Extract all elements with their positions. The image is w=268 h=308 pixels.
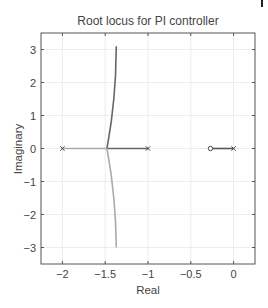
y-axis-label: Imaginary <box>12 124 24 175</box>
y-tick-label: 1 <box>30 110 36 122</box>
y-tick-label: −3 <box>23 242 36 254</box>
x-tick-label: −2 <box>56 268 69 280</box>
y-tick-label: −2 <box>23 209 36 221</box>
x-axis-label: Real <box>136 284 160 296</box>
page-edge-mark <box>261 0 263 7</box>
axis-ticks: −2−1.5−1−0.503210−1−2−3 <box>23 33 255 280</box>
zero-o-icon <box>208 146 212 150</box>
x-tick-label: −0.5 <box>180 268 202 280</box>
chart-title: Root locus for PI controller <box>77 14 218 28</box>
y-tick-label: 3 <box>30 44 36 56</box>
x-tick-label: −1 <box>142 268 155 280</box>
root-locus-figure: −2−1.5−1−0.503210−1−2−3 Root locus for P… <box>0 0 268 308</box>
x-tick-label: 0 <box>231 268 237 280</box>
y-tick-label: 2 <box>30 77 36 89</box>
y-tick-label: −1 <box>23 176 36 188</box>
locus-branch-2 <box>62 149 116 248</box>
x-tick-label: −1.5 <box>94 268 116 280</box>
y-tick-label: 0 <box>30 143 36 155</box>
locus-branch-1 <box>107 46 148 148</box>
